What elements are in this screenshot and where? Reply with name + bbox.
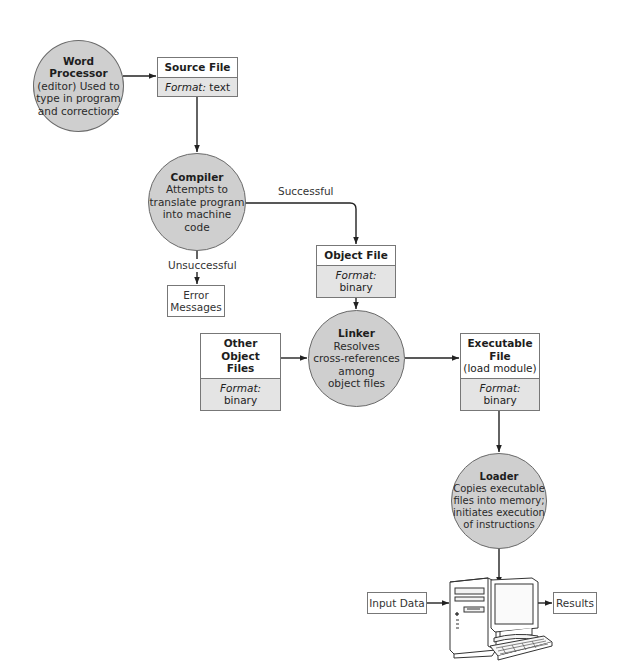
executable-file-subtitle: (load module) <box>463 362 537 375</box>
compiler-title: Compiler <box>171 171 224 184</box>
other-object-files-title: Other Object <box>203 337 278 362</box>
compiler-node: Compiler Attempts to translate program i… <box>148 153 246 251</box>
edge-label-unsuccessful: Unsuccessful <box>168 259 237 271</box>
linker-line: cross-references <box>313 352 400 365</box>
loader-title: Loader <box>480 471 519 483</box>
linker-line: object files <box>328 377 385 390</box>
format-label: Format: <box>220 382 261 394</box>
executable-file-node: Executable File (load module) Format: bi… <box>460 333 540 411</box>
error-messages-node: Error Messages <box>167 285 225 317</box>
compiler-line: Attempts to <box>166 183 228 196</box>
other-object-files-node: Other Object Files Format: binary <box>200 333 281 411</box>
error-messages-line: Error <box>183 289 209 302</box>
source-file-format: Format: text <box>158 77 237 97</box>
linker-line: Resolves <box>333 340 379 353</box>
source-file-node: Source File Format: text <box>157 57 238 97</box>
object-file-format: Format: binary <box>317 265 395 297</box>
word-processor-line: and corrections <box>38 105 119 118</box>
arrow-compiler-to-object <box>245 203 356 244</box>
linker-line: among <box>338 365 374 378</box>
format-label: Format: <box>479 382 520 394</box>
desktop-computer-icon <box>440 570 580 665</box>
edge-label-successful: Successful <box>278 185 334 197</box>
loader-line: Copies executable <box>453 483 545 495</box>
loader-line: files into memory; <box>453 495 544 507</box>
compiler-line: into machine <box>163 208 232 221</box>
format-value: binary <box>224 394 257 406</box>
format-value: binary <box>483 394 516 406</box>
word-processor-node: Word Processor (editor) Used to type in … <box>33 40 124 132</box>
executable-file-format: Format: binary <box>461 378 539 410</box>
linker-node: Linker Resolves cross-references among o… <box>308 310 405 407</box>
format-label: Format: <box>165 81 206 93</box>
linker-title: Linker <box>338 327 375 340</box>
object-file-title: Object File <box>324 249 388 261</box>
word-processor-title: Word Processor <box>34 55 123 80</box>
source-file-title: Source File <box>165 61 231 73</box>
object-file-node: Object File Format: binary <box>316 245 396 298</box>
compiler-line: translate program <box>149 196 244 209</box>
compiler-line: code <box>184 221 209 234</box>
input-data-label: Input Data <box>369 597 425 610</box>
loader-line: of instructions <box>463 519 534 531</box>
word-processor-line: (editor) Used to <box>37 80 120 93</box>
executable-file-title: Executable File <box>463 337 537 362</box>
word-processor-line: type in program <box>36 92 121 105</box>
format-label: Format: <box>335 269 376 281</box>
error-messages-line: Messages <box>170 301 222 314</box>
other-object-files-format: Format: binary <box>201 378 280 410</box>
loader-node: Loader Copies executable files into memo… <box>451 453 547 549</box>
loader-line: initiates execution <box>453 507 545 519</box>
input-data-node: Input Data <box>367 592 427 614</box>
format-value: binary <box>339 281 372 293</box>
other-object-files-title: Files <box>203 362 278 375</box>
format-value: text <box>209 81 230 93</box>
